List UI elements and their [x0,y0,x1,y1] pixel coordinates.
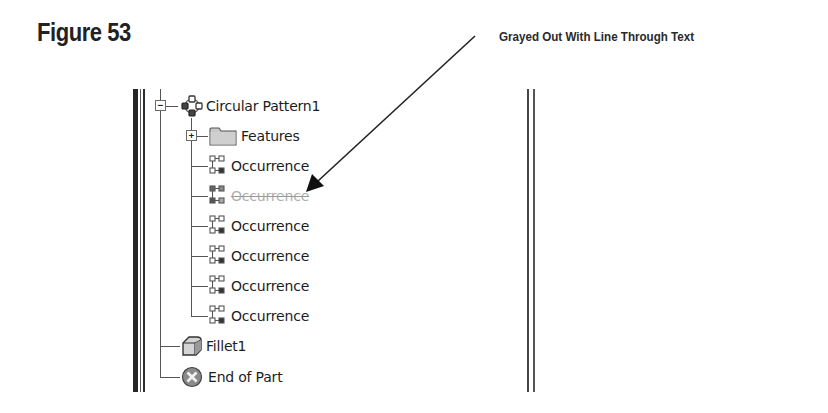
tree-connector [191,226,208,227]
tree-connector [196,136,208,137]
fillet-icon [181,335,203,357]
occurrence-icon [208,244,228,268]
tree-item-end-of-part[interactable]: End of Part [181,365,282,389]
tree-connector [191,256,208,257]
occurrence-icon [208,184,228,208]
tree-connector [191,286,208,287]
tree-item-label: Circular Pattern1 [206,98,320,114]
occurrence-icon [208,304,228,328]
folder-icon [209,125,237,147]
tree-item-fillet[interactable]: Fillet1 [181,334,246,358]
occurrence-icon [208,274,228,298]
tree-item-occurrence[interactable]: Occurrence [208,214,309,238]
tree-item-label: End of Part [208,369,282,385]
tree-item-label: Occurrence [231,308,309,324]
tree-connector [160,89,161,377]
end-of-part-icon [181,366,203,388]
tree-item-features[interactable]: Features [209,124,300,148]
tree-connector [191,316,208,317]
tree-connector [166,106,178,107]
tree-item-label-suppressed: Occurrence [231,188,309,204]
tree-item-occurrence[interactable]: Occurrence [208,154,309,178]
tree-connector [191,196,208,197]
tree-item-occurrence[interactable]: Occurrence [208,274,309,298]
tree-item-label: Occurrence [231,158,309,174]
occurrence-icon [208,214,228,238]
tree-item-occurrence[interactable]: Occurrence [208,244,309,268]
occurrence-icon [208,154,228,178]
tree-connector [191,166,208,167]
expand-toggle[interactable]: + [186,130,197,141]
tree-item-label: Occurrence [231,278,309,294]
tree-connector [160,346,180,347]
tree-item-label: Features [241,128,300,144]
collapse-toggle[interactable]: − [155,100,166,111]
tree-item-label: Occurrence [231,248,309,264]
tree-item-label: Occurrence [231,218,309,234]
tree-item-label: Fillet1 [206,338,246,354]
circular-pattern-icon [181,95,203,117]
tree-connector [160,377,180,378]
browser-tree: − Circular Pattern1 + Features Occu [0,0,828,413]
tree-item-occurrence[interactable]: Occurrence [208,304,309,328]
tree-item-occurrence-suppressed[interactable]: Occurrence [208,184,309,208]
tree-item-circular-pattern[interactable]: Circular Pattern1 [181,94,320,118]
